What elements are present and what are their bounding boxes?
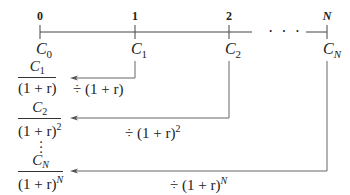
cash-flow-sub: 1 — [142, 48, 148, 60]
discount-operation-N: ÷ (1 + r)N — [170, 176, 227, 193]
cash-flow-2: C2 — [225, 41, 241, 60]
pv-num-base: C — [32, 99, 42, 115]
cash-flow-base: C — [36, 40, 47, 57]
period-label-N: N — [323, 10, 332, 22]
pv-numerator: C1 — [18, 58, 56, 77]
pv-den-exp: 2 — [56, 121, 61, 132]
discount-arrow-1 — [74, 61, 135, 78]
cash-flow-sub: 2 — [236, 48, 242, 60]
pv-numerator: CN — [18, 152, 63, 171]
discount-operation-2: ÷ (1 + r)2 — [125, 124, 180, 141]
cash-flow-base: C — [131, 40, 142, 57]
op-base: ÷ (1 + r) — [170, 177, 220, 193]
cash-flow-sub: N — [334, 48, 341, 60]
pv-num-base: C — [30, 58, 40, 74]
pv-denominator: (1 + r)N — [18, 171, 63, 193]
present-value-2: C2 (1 + r)2 — [18, 99, 61, 140]
pv-denominator: (1 + r) — [18, 77, 56, 97]
pv-num-sub: 1 — [40, 65, 45, 76]
timeline-ellipsis: · · · — [268, 24, 302, 40]
present-value-N: CN (1 + r)N — [18, 152, 63, 193]
pv-num-base: C — [32, 152, 42, 168]
period-label-0: 0 — [37, 10, 43, 22]
pv-den-base: (1 + r) — [18, 123, 56, 139]
cash-flow-base: C — [323, 40, 334, 57]
cash-flow-1: C1 — [131, 41, 147, 60]
pv-numerator: C2 — [18, 99, 61, 118]
pv-den-exp: N — [56, 174, 63, 185]
pv-num-sub: N — [42, 159, 49, 170]
period-label-2: 2 — [226, 10, 232, 22]
cash-flow-N: CN — [323, 41, 341, 60]
present-value-1: C1 (1 + r) — [18, 58, 56, 97]
cash-flow-base: C — [225, 40, 236, 57]
pv-num-sub: 2 — [42, 106, 47, 117]
op-exp: N — [220, 175, 227, 186]
period-label-1: 1 — [132, 10, 138, 22]
op-base: ÷ (1 + r) — [125, 125, 175, 141]
op-exp: 2 — [175, 123, 180, 134]
discount-operation-1: ÷ (1 + r) — [73, 82, 123, 97]
pv-den-base: (1 + r) — [18, 176, 56, 192]
